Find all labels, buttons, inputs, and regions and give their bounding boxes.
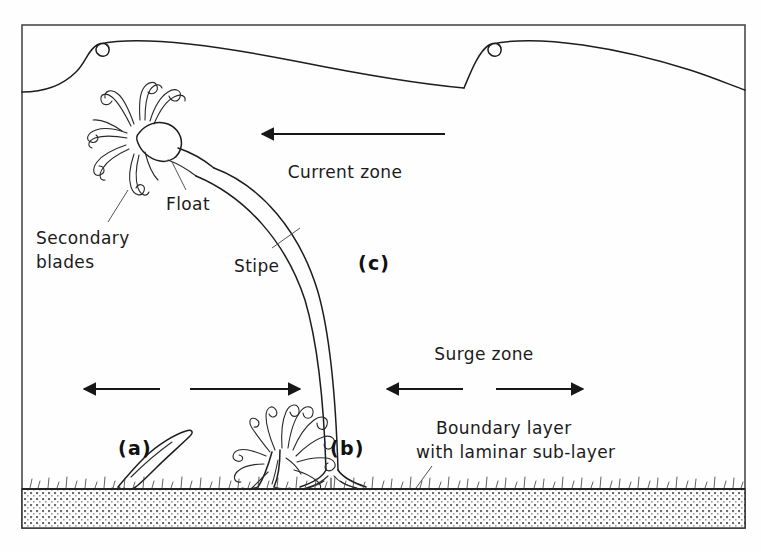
secondary-blades-label-line2: blades [36,252,94,272]
stipe-label: Stipe [234,256,279,276]
kelp-mature-c [88,82,366,488]
boundary-layer-label-line2: with laminar sub-layer [416,442,616,462]
float-label: Float [166,194,210,214]
surge-zone-label: Surge zone [434,344,533,364]
surge-zone-group: Surge zone [387,344,583,389]
figure-root: Current zone [0,0,761,552]
holdfast-c [300,470,366,488]
stage-c-label: (c) [358,252,390,274]
boundary-layer-label-line1: Boundary layer [436,418,572,438]
current-zone-label: Current zone [288,162,403,182]
float-shape [137,122,182,161]
kelp-zonation-diagram: Current zone [0,0,761,552]
anatomy-annotations: Secondary blades Float Stipe [36,162,300,276]
stage-a-label: (a) [118,437,152,459]
sea-surface-waves [22,41,745,92]
secondary-blades-leader [108,190,128,222]
float-leader [172,162,186,190]
float-neck [178,148,214,168]
wave-crest-left [22,41,464,92]
substrate-stipple-band [22,489,745,528]
stipe-leader [272,228,300,248]
current-zone-group: Current zone [262,134,445,182]
boundary-layer-group: Boundary layer with laminar sub-layer [416,418,616,488]
sea-bed [22,477,745,528]
stage-b-label: (b) [330,437,365,459]
secondary-blades-label-line1: Secondary [36,228,130,248]
stipe-inner-edge [196,176,326,470]
wave-crest-right [464,41,745,90]
stipe-outer-edge [214,168,338,470]
